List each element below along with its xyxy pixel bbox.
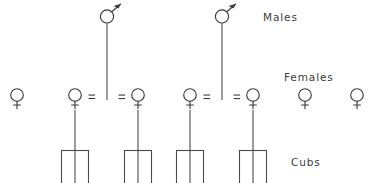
label-cubs: Cubs xyxy=(291,156,321,168)
female-individual-5[interactable] xyxy=(247,89,260,109)
mars-arrow-head-icon xyxy=(229,4,236,9)
cub-tier xyxy=(61,110,267,183)
litter-group-4 xyxy=(239,110,267,183)
litter-group-1 xyxy=(61,110,89,183)
female-tier xyxy=(11,89,364,109)
pedigree-diagram: Males Females Cubs xyxy=(0,0,380,183)
pedigree-canvas: Males Females Cubs xyxy=(0,0,380,183)
venus-circle-icon xyxy=(299,89,312,102)
label-males: Males xyxy=(263,11,298,23)
male-tier xyxy=(100,4,235,100)
union-marker-1 xyxy=(89,95,96,100)
female-individual-2[interactable] xyxy=(69,89,82,109)
venus-circle-icon xyxy=(132,89,145,102)
venus-circle-icon xyxy=(351,89,364,102)
tier-labels: Males Females Cubs xyxy=(263,11,334,168)
union-marker-3 xyxy=(204,95,211,100)
male-individual-2[interactable] xyxy=(215,4,235,100)
label-females: Females xyxy=(284,71,334,83)
union-marker-2 xyxy=(119,95,126,100)
litter-group-3 xyxy=(176,110,204,183)
venus-circle-icon xyxy=(11,89,24,102)
venus-circle-icon xyxy=(184,89,197,102)
litter-group-2 xyxy=(124,110,152,183)
female-individual-6[interactable] xyxy=(299,89,312,109)
venus-circle-icon xyxy=(247,89,260,102)
female-individual-3[interactable] xyxy=(132,89,145,109)
mars-arrow-head-icon xyxy=(114,4,121,9)
male-individual-1[interactable] xyxy=(100,4,120,100)
union-marker-4 xyxy=(234,95,241,100)
union-markers xyxy=(89,95,241,100)
female-individual-7[interactable] xyxy=(351,89,364,109)
female-individual-1[interactable] xyxy=(11,89,24,109)
venus-circle-icon xyxy=(69,89,82,102)
female-individual-4[interactable] xyxy=(184,89,197,109)
